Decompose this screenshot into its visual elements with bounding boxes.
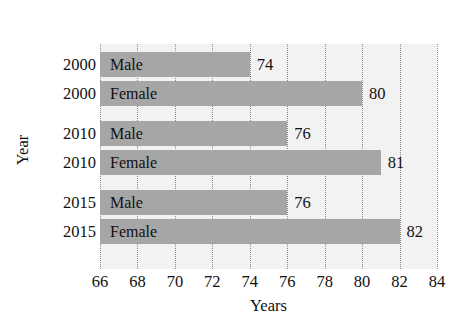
y-axis-tick-label: 2000 [44, 81, 96, 106]
bar-row: Male74 [100, 52, 437, 77]
bar-value-label: 81 [388, 150, 405, 175]
x-axis-tick-label: 84 [417, 272, 457, 292]
bar-chart-figure: the United States Male74Female80Male76Fe… [0, 0, 464, 331]
plot-area: Male74Female80Male76Female81Male76Female… [100, 44, 437, 269]
y-axis-tick-label: 2010 [44, 121, 96, 146]
chart-title: the United States [0, 0, 464, 4]
bar-category-label: Male [110, 121, 143, 146]
bar-value-label: 80 [369, 81, 386, 106]
y-axis-tick-label: 2015 [44, 219, 96, 244]
y-axis-title: Year [13, 105, 33, 195]
bar-row: Female82 [100, 219, 437, 244]
bar-row: Female81 [100, 150, 437, 175]
bar-category-label: Male [110, 52, 143, 77]
x-axis-tick-label: 66 [80, 272, 120, 292]
x-axis-title: Years [100, 296, 437, 316]
bar-value-label: 74 [257, 52, 274, 77]
bar-row: Male76 [100, 190, 437, 215]
bar-category-label: Female [110, 81, 157, 106]
x-axis-tick-label: 70 [155, 272, 195, 292]
bar-category-label: Male [110, 190, 143, 215]
gridline [437, 44, 438, 269]
x-axis-tick-label: 72 [192, 272, 232, 292]
bar-value-label: 82 [407, 219, 424, 244]
x-axis-tick-label: 76 [267, 272, 307, 292]
bar-category-label: Female [110, 150, 157, 175]
x-axis-tick-labels: 66687072747678808284 [100, 272, 437, 294]
x-axis-tick-label: 78 [305, 272, 345, 292]
y-axis-tick-label: 2015 [44, 190, 96, 215]
bar-value-label: 76 [294, 121, 311, 146]
bar-row: Female80 [100, 81, 437, 106]
y-axis-tick-label: 2010 [44, 150, 96, 175]
x-axis-tick-label: 74 [230, 272, 270, 292]
bar-category-label: Female [110, 219, 157, 244]
x-axis-tick-label: 80 [342, 272, 382, 292]
x-axis-tick-label: 68 [117, 272, 157, 292]
chart-title-line: the United States [44, 0, 464, 4]
y-axis-tick-labels: 200020002010201020152015 [40, 44, 96, 269]
bar-row: Male76 [100, 121, 437, 146]
y-axis-tick-label: 2000 [44, 52, 96, 77]
bar-value-label: 76 [294, 190, 311, 215]
x-axis-tick-label: 82 [380, 272, 420, 292]
